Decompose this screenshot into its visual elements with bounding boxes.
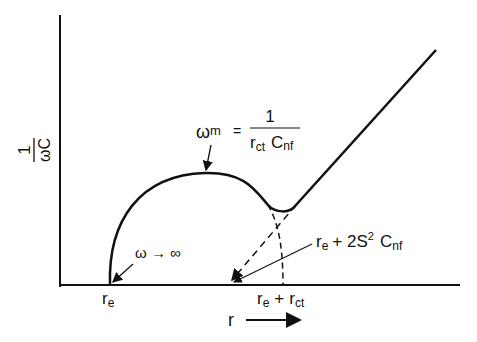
omega-infinity-label: ω → ∞ — [135, 244, 181, 261]
semicircle-dashed-extension — [268, 205, 283, 285]
svg-text:1: 1 — [265, 107, 274, 126]
svg-text:rctCnf: rctCnf — [250, 133, 294, 154]
y-label-numerator: 1 — [15, 145, 34, 154]
y-label-denominator: ωC — [36, 138, 53, 162]
x-axis-label: r — [228, 310, 234, 330]
svg-text:=: = — [233, 123, 241, 139]
omega-m-arrow — [206, 145, 211, 170]
intercept-label: re+ 2S2Cnf — [316, 230, 403, 253]
y-axis-label: 1 ωC — [15, 138, 53, 162]
svg-text:ωm: ωm — [196, 122, 221, 142]
omega-inf-arrow — [113, 264, 133, 282]
tick-label-re: re — [102, 289, 115, 310]
omega-m-formula: ωm = 1 rctCnf — [196, 107, 300, 154]
warburg-extrapolation-dashed — [232, 205, 296, 280]
impedance-diagram: 1 ωC ωm = 1 rctCnf ω → ∞ re+ 2S2Cnf re r… — [0, 0, 477, 342]
tick-label-re-plus-rct: re+rct — [257, 289, 305, 310]
